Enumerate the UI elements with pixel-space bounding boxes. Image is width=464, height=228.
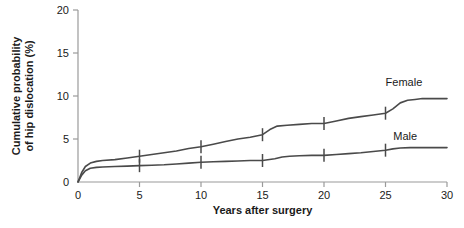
x-axis-tick-label: 5 — [136, 189, 142, 201]
y-axis-tick-label: 10 — [57, 90, 69, 102]
chart-figure: 05101520051015202530 FemaleMaleYears aft… — [0, 0, 464, 228]
y-axis-tick-label: 20 — [57, 4, 69, 16]
cumulative-hip-dislocation-chart: 05101520051015202530 FemaleMaleYears aft… — [0, 0, 464, 228]
y-axis-title-line-2: of hip dislocation (%) — [23, 40, 35, 152]
axes: 05101520051015202530 — [57, 4, 453, 201]
chart-labels: FemaleMaleYears after surgeryCumulative … — [10, 36, 422, 216]
y-axis-tick-label: 0 — [63, 176, 69, 188]
series-lines — [78, 99, 447, 182]
series-label-female: Female — [386, 76, 423, 88]
series-label-male: Male — [393, 130, 417, 142]
x-axis-tick-label: 25 — [379, 189, 391, 201]
x-axis-tick-label: 30 — [441, 189, 453, 201]
y-axis-tick-label: 15 — [57, 47, 69, 59]
x-axis-tick-label: 20 — [318, 189, 330, 201]
x-axis-tick-label: 15 — [256, 189, 268, 201]
y-axis-title-line-1: Cumulative probability — [10, 36, 22, 155]
x-axis-title: Years after surgery — [213, 204, 314, 216]
y-axis-tick-label: 5 — [63, 133, 69, 145]
x-axis-tick-label: 0 — [75, 189, 81, 201]
x-axis-tick-label: 10 — [195, 189, 207, 201]
